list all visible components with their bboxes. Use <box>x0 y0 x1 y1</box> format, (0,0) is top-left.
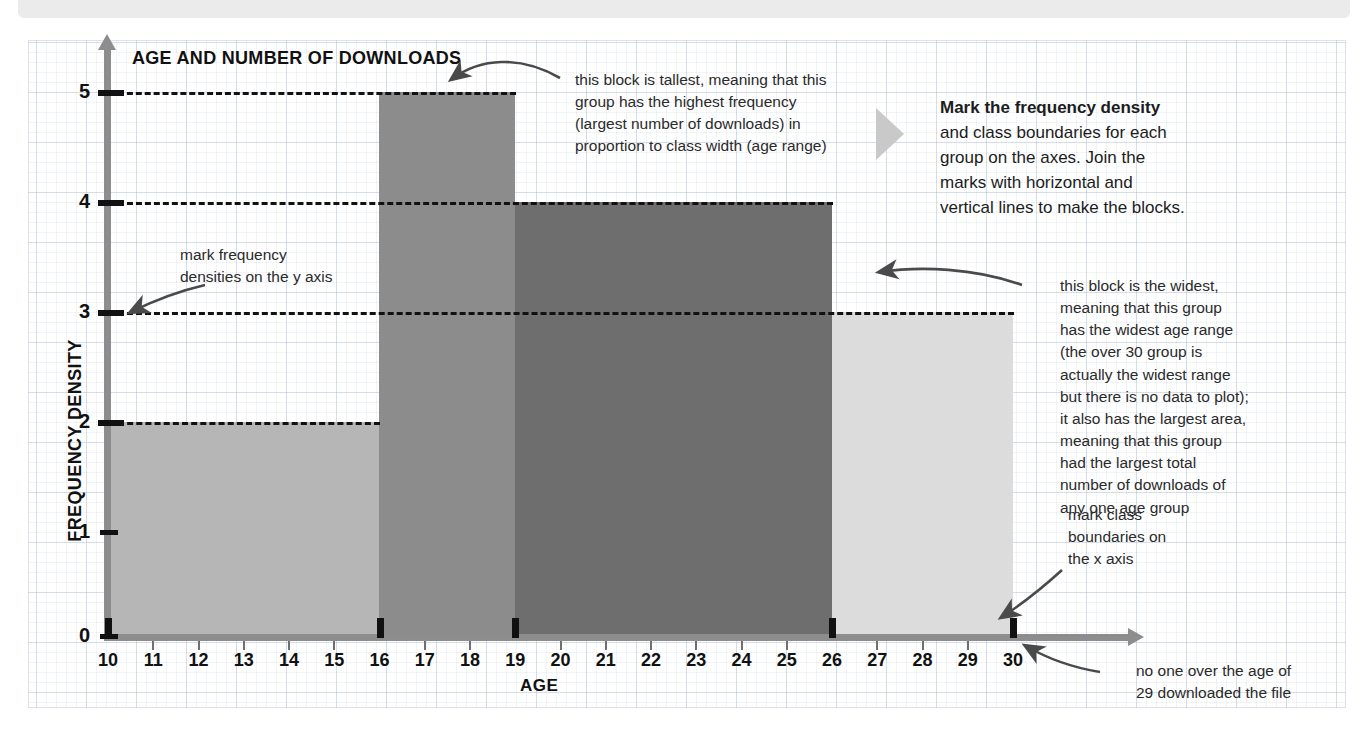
note-line: proportion to class width (age range) <box>575 135 905 157</box>
note-tallest-block: this block is tallest, meaning that this… <box>575 69 905 158</box>
notes-layer: mark frequency densities on the y axis t… <box>0 0 1368 748</box>
note-widest-block: this block is the widest, meaning that t… <box>1060 275 1330 519</box>
note-line: no one over the age of <box>1136 660 1368 682</box>
note-line: number of downloads of <box>1060 474 1330 496</box>
note-line: (largest number of downloads) in <box>575 113 905 135</box>
note-line: but there is no data to plot); <box>1060 386 1330 408</box>
note-line: the x axis <box>1068 548 1288 570</box>
note-line: this block is the widest, <box>1060 275 1330 297</box>
note-line: it also has the largest area, <box>1060 408 1330 430</box>
note-no-data-over-29: no one over the age of 29 downloaded the… <box>1136 660 1368 704</box>
note-line: group has the highest frequency <box>575 91 905 113</box>
note-line: mark class <box>1068 504 1288 526</box>
note-line: this block is tallest, meaning that this <box>575 69 905 91</box>
note-line: has the widest age range <box>1060 319 1330 341</box>
note-line: meaning that this group <box>1060 297 1330 319</box>
note-line: meaning that this group <box>1060 430 1330 452</box>
note-line: (the over 30 group is <box>1060 341 1330 363</box>
note-y-axis-densities: mark frequency densities on the y axis <box>180 244 410 288</box>
note-line: actually the widest range <box>1060 364 1330 386</box>
instruction-callout: Mark the frequency density and class bou… <box>940 96 1190 221</box>
note-line: 29 downloaded the file <box>1136 682 1368 704</box>
callout-rest-text: and class boundaries for each group on t… <box>940 123 1185 217</box>
note-line: boundaries on <box>1068 526 1288 548</box>
note-line: had the largest total <box>1060 452 1330 474</box>
note-line: densities on the y axis <box>180 266 410 288</box>
note-class-boundaries: mark class boundaries on the x axis <box>1068 504 1288 570</box>
note-line: mark frequency <box>180 244 410 266</box>
triangle-right-icon <box>876 108 904 160</box>
callout-bold-text: Mark the frequency density <box>940 98 1160 117</box>
